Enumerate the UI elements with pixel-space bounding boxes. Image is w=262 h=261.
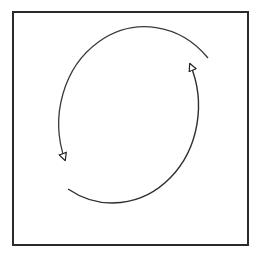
diagram-svg (0, 0, 262, 261)
lower-right-arrow (68, 64, 198, 203)
diagram-frame (13, 12, 248, 245)
upper-left-arrow (59, 27, 208, 160)
cycle-diagram: Square frame containing two curved arrow… (0, 0, 262, 261)
